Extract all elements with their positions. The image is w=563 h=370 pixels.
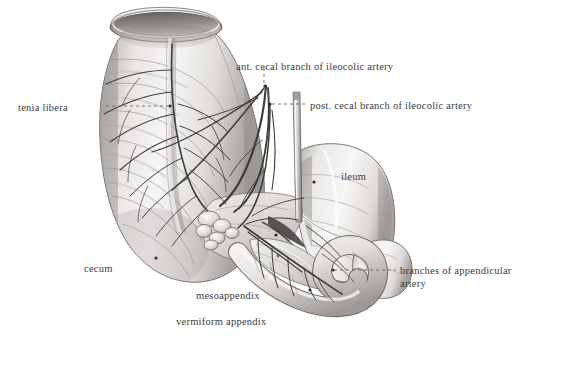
anatomy-illustration xyxy=(0,0,563,370)
label-cecum: cecum xyxy=(84,262,113,275)
label-ileum: ileum xyxy=(341,170,366,183)
colon-cut-lumen xyxy=(110,7,222,48)
label-ant-cecal-branch: ant. cecal branch of ileocolic artery xyxy=(236,60,393,73)
anatomical-plate: ant. cecal branch of ileocolic artery po… xyxy=(0,0,563,370)
label-vermiform-appendix: vermiform appendix xyxy=(176,315,267,328)
dot-cecum xyxy=(154,256,157,259)
dot-appendicular-2 xyxy=(274,233,277,236)
label-branches-appendicular-artery: branches of appendicular artery xyxy=(400,264,540,290)
label-post-cecal-branch: post. cecal branch of ileocolic artery xyxy=(310,99,472,112)
dot-ileum xyxy=(312,180,315,183)
label-tenia-libera: tenia libera xyxy=(18,101,68,114)
label-mesoappendix: mesoappendix xyxy=(196,289,260,302)
dot-appendix xyxy=(308,288,311,291)
